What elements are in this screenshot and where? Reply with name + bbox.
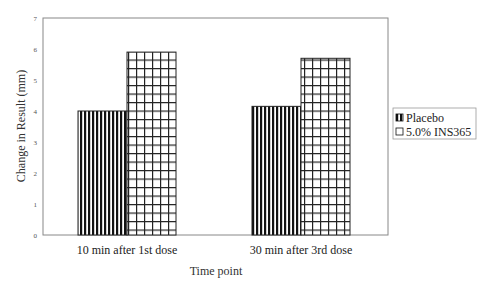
y-axis-title: Change in Result (mm): [14, 70, 28, 182]
y-tick-label: 5: [34, 77, 38, 85]
y-tick-label: 6: [34, 46, 38, 54]
x-axis-categories: 10 min after 1st dose30 min after 3rd do…: [77, 243, 353, 257]
legend-label-ins365: 5.0% INS365: [406, 125, 471, 139]
legend-item-ins365: 5.0% INS365: [396, 125, 471, 139]
legend-label-placebo: Placebo: [406, 111, 444, 125]
legend-swatch-placebo: [396, 114, 403, 121]
bar-placebo-2: [252, 106, 301, 235]
bar-placebo-1: [78, 111, 127, 235]
legend-swatch-ins365: [396, 128, 403, 135]
bar-ins365-1: [127, 52, 176, 235]
bars: [78, 52, 350, 235]
x-category-label: 30 min after 3rd dose: [250, 243, 353, 257]
y-tick-label: 4: [34, 108, 38, 116]
bar-ins365-2: [301, 58, 350, 235]
y-tick-label: 2: [34, 170, 38, 178]
y-tick-label: 1: [34, 201, 38, 209]
bar-chart: 01234567 10 min after 1st dose30 min aft…: [0, 0, 487, 290]
x-axis-title: Time point: [190, 264, 243, 278]
y-tick-label: 3: [34, 139, 38, 147]
y-tick-label: 7: [34, 15, 38, 23]
y-tick-label: 0: [34, 232, 38, 240]
y-axis-ticks: 01234567: [34, 15, 38, 240]
legend: Placebo 5.0% INS365: [393, 108, 476, 139]
x-category-label: 10 min after 1st dose: [77, 243, 178, 257]
